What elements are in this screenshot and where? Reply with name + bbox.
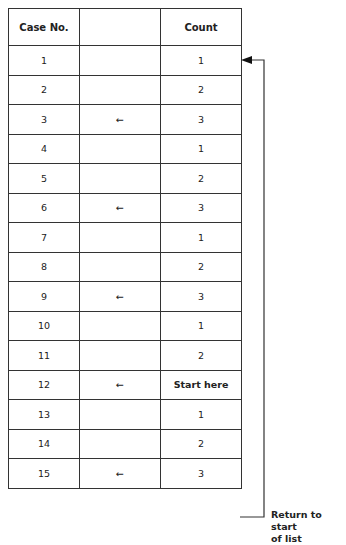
label-line-1: Return to start xyxy=(271,509,346,533)
arrowhead-icon xyxy=(241,56,252,64)
return-to-start-label: Return to start of list xyxy=(271,509,346,545)
label-line-2: of list xyxy=(271,533,346,545)
